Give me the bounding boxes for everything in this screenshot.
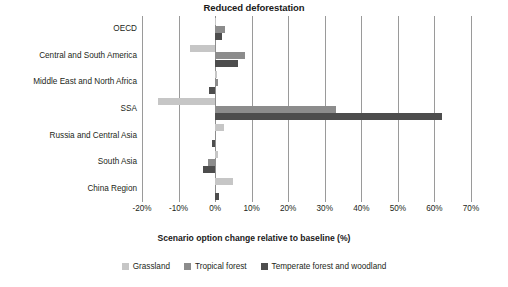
y-axis-label: Central and South America <box>0 51 137 60</box>
legend-label: Grassland <box>133 262 170 271</box>
bar <box>215 132 216 139</box>
x-tick-label: 70% <box>449 204 493 213</box>
bar <box>215 60 238 67</box>
bar <box>215 79 218 86</box>
legend-label: Temperate forest and woodland <box>272 262 387 271</box>
legend-swatch-icon <box>184 263 191 270</box>
bar <box>208 159 215 166</box>
bar <box>215 185 216 192</box>
bar <box>203 166 215 173</box>
bar <box>158 98 215 105</box>
bar <box>215 33 222 40</box>
y-axis-label: Russia and Central Asia <box>0 131 137 140</box>
bar <box>215 26 225 33</box>
gridline-70 <box>471 16 472 202</box>
gridline-60 <box>434 16 435 202</box>
chart-legend: GrasslandTropical forestTemperate forest… <box>0 262 508 271</box>
chart-container: Reduced deforestation OECDCentral and So… <box>0 0 508 287</box>
bar <box>215 124 223 131</box>
gridline-neg20 <box>142 16 143 202</box>
plot-area <box>142 16 471 202</box>
bar <box>215 18 216 25</box>
y-axis-label: OECD <box>0 24 137 33</box>
gridline-50 <box>398 16 399 202</box>
legend-label: Tropical forest <box>195 262 247 271</box>
legend-swatch-icon <box>261 263 268 270</box>
legend-item[interactable]: Tropical forest <box>184 262 247 271</box>
legend-item[interactable]: Temperate forest and woodland <box>261 262 387 271</box>
legend-swatch-icon <box>122 263 129 270</box>
y-axis-label: China Region <box>0 184 137 193</box>
bar <box>209 87 215 94</box>
bar <box>215 193 219 200</box>
bar <box>190 45 216 52</box>
bar <box>215 178 233 185</box>
y-axis-label: SSA <box>0 104 137 113</box>
bar <box>215 52 245 59</box>
gridline-neg10 <box>179 16 180 202</box>
y-axis-label: Middle East and North Africa <box>0 77 137 86</box>
bar <box>215 106 336 113</box>
bar <box>215 151 218 158</box>
y-axis-label: South Asia <box>0 157 137 166</box>
bar <box>215 113 442 120</box>
legend-item[interactable]: Grassland <box>122 262 170 271</box>
bar <box>215 71 217 78</box>
x-axis-title: Scenario option change relative to basel… <box>0 233 508 243</box>
chart-title: Reduced deforestation <box>0 2 508 13</box>
gridline-40 <box>361 16 362 202</box>
bar <box>212 140 215 147</box>
